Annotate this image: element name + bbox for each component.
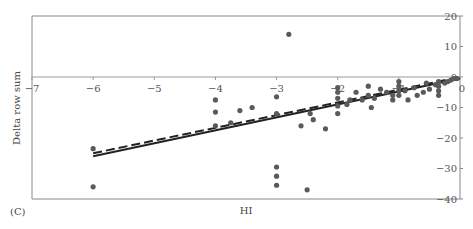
x-tick-label: 0: [459, 83, 465, 94]
x-axis-title: HI: [240, 205, 253, 216]
data-point: [436, 79, 441, 84]
data-point: [250, 105, 255, 110]
data-point: [311, 117, 316, 122]
data-point: [237, 108, 242, 113]
data-point: [274, 111, 279, 116]
data-point: [402, 88, 407, 93]
data-point: [298, 123, 303, 128]
data-point: [347, 97, 352, 102]
data-point: [372, 96, 377, 101]
x-tick-label: −7: [25, 83, 40, 94]
x-tick-label: −4: [208, 83, 223, 94]
x-tick-label: −6: [86, 83, 101, 94]
data-point: [335, 103, 340, 108]
y-tick-label: 10: [444, 41, 457, 52]
scatter-chart: 20100−10−20−30−40 −7−6−5−4−3−2−10 Delta …: [0, 0, 473, 229]
data-point: [369, 105, 374, 110]
data-point: [335, 85, 340, 90]
data-point: [308, 111, 313, 116]
data-point: [274, 183, 279, 188]
data-point: [228, 120, 233, 125]
data-point: [427, 87, 432, 92]
y-axis-title: Delta row sum: [11, 71, 22, 145]
y-tick-label: 20: [444, 11, 457, 22]
data-point: [424, 81, 429, 86]
data-point: [323, 126, 328, 131]
data-point: [274, 174, 279, 179]
y-tick-label: −40: [436, 194, 457, 205]
data-point: [335, 111, 340, 116]
data-point: [396, 88, 401, 93]
data-point: [286, 32, 291, 37]
data-point: [384, 90, 389, 95]
data-point: [421, 90, 426, 95]
data-point: [274, 164, 279, 169]
data-point: [436, 88, 441, 93]
data-point: [405, 97, 410, 102]
data-point: [378, 87, 383, 92]
data-point: [390, 93, 395, 98]
y-axis-right: 20100−10−20−30−40: [436, 11, 463, 205]
data-point: [366, 93, 371, 98]
plot-frame: [32, 16, 460, 199]
data-point: [436, 84, 441, 89]
data-point: [335, 96, 340, 101]
data-point: [396, 79, 401, 84]
data-point: [353, 90, 358, 95]
data-point: [335, 90, 340, 95]
y-tick-label: −20: [436, 133, 457, 144]
data-point: [396, 84, 401, 89]
panel-label: (C): [10, 206, 25, 217]
data-point: [344, 102, 349, 107]
data-point: [360, 97, 365, 102]
data-point: [412, 85, 417, 90]
x-tick-label: −5: [147, 83, 162, 94]
data-point: [213, 97, 218, 102]
data-point: [436, 93, 441, 98]
data-point: [91, 184, 96, 189]
data-points: [91, 32, 460, 193]
data-point: [415, 93, 420, 98]
data-point: [366, 84, 371, 89]
y-tick-label: −30: [436, 163, 457, 174]
y-tick-label: −10: [436, 102, 457, 113]
data-point: [396, 93, 401, 98]
data-point: [454, 76, 459, 81]
data-point: [91, 146, 96, 151]
data-point: [213, 123, 218, 128]
data-point: [305, 187, 310, 192]
data-point: [274, 94, 279, 99]
data-point: [390, 97, 395, 102]
x-tick-label: −3: [269, 83, 284, 94]
data-point: [213, 109, 218, 114]
